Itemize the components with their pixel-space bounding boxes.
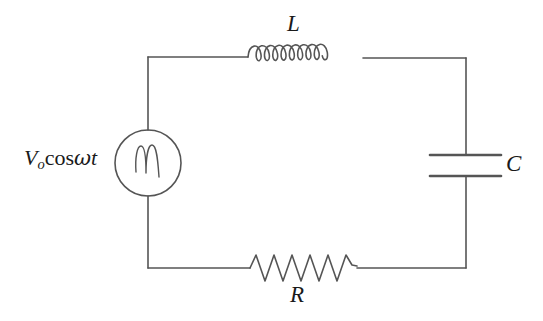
source-voltage-cos: cos xyxy=(45,145,74,170)
source-voltage-omega: ω xyxy=(74,146,91,170)
ac-source-wave-icon xyxy=(136,145,159,177)
source-voltage-t: t xyxy=(91,145,97,170)
inductor-coil xyxy=(248,44,327,60)
ac-source-circle xyxy=(115,130,181,196)
circuit-diagram: L C R Vocosωt xyxy=(0,0,543,321)
resistor-zigzag xyxy=(250,255,357,281)
source-voltage-subscript: o xyxy=(37,156,44,172)
source-voltage-label: Vocosωt xyxy=(24,147,97,172)
inductor-label: L xyxy=(287,12,300,35)
capacitor-label: C xyxy=(506,152,521,175)
resistor-label: R xyxy=(290,283,304,306)
source-voltage-V: V xyxy=(24,145,37,170)
